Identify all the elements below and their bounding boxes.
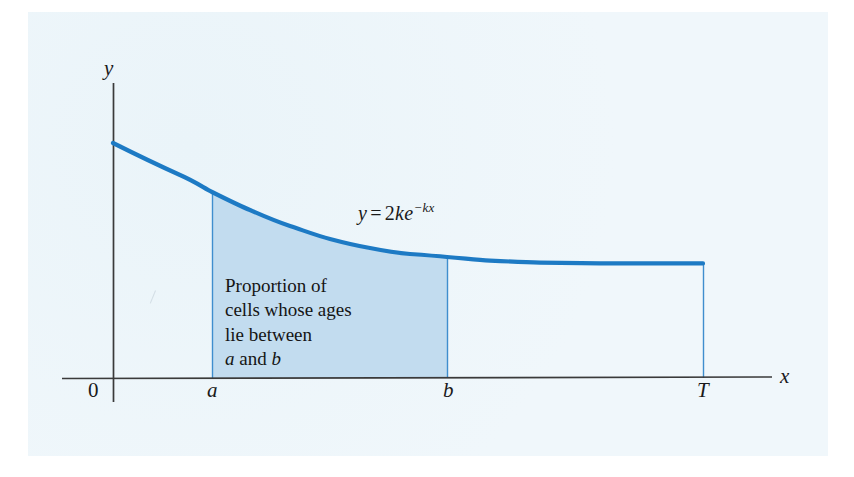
- equation-k: k: [395, 202, 404, 224]
- caption-conjunction: and: [235, 348, 272, 369]
- caption-line-3: lie between: [225, 323, 352, 347]
- x-axis-label: x: [780, 364, 789, 389]
- caption-line-1: Proportion of: [225, 274, 352, 298]
- exponential-decay-chart: [0, 0, 854, 477]
- caption-line-4: a and b: [225, 347, 352, 371]
- caption-var-a: a: [225, 348, 235, 369]
- figure-root: y x 0 a b T y=2ke−kx Proportion of cells…: [0, 0, 854, 477]
- equation-equals-sign: =: [367, 202, 385, 224]
- caption-line-2: cells whose ages: [225, 298, 352, 322]
- tick-label-b: b: [443, 378, 454, 403]
- tick-label-origin: 0: [88, 378, 99, 403]
- equation-exponent: −kx: [413, 200, 434, 215]
- tick-label-a: a: [207, 378, 218, 403]
- equation-coefficient: 2: [385, 202, 395, 224]
- curve-equation-label: y=2ke−kx: [358, 202, 435, 225]
- shaded-region-caption: Proportion of cells whose ages lie betwe…: [225, 274, 352, 371]
- y-axis-label: y: [104, 56, 113, 81]
- tick-label-T: T: [697, 378, 709, 403]
- equation-lhs: y: [358, 202, 367, 224]
- caption-var-b: b: [271, 348, 281, 369]
- x-axis: [62, 377, 772, 379]
